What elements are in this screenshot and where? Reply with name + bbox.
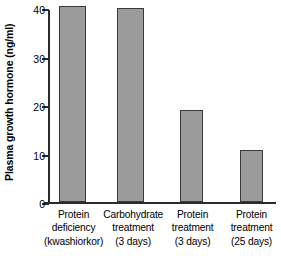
x-axis-label-0-line-2: (kwashiorkor) — [44, 235, 103, 248]
x-axis-label-2-line-1: treatment — [163, 221, 222, 234]
y-axis-title: Plasma growth hormone (ng/ml) — [0, 0, 18, 205]
x-axis-label-1-line-1: treatment — [103, 221, 163, 234]
x-axis-line — [44, 202, 276, 204]
y-tick-label-20: 20 — [33, 102, 45, 113]
bar-chart: Plasma growth hormone (ng/ml) 0 10 20 30… — [0, 0, 281, 259]
x-axis-label-2-line-2: (3 days) — [163, 235, 222, 248]
plot-area: 0 10 20 30 40 — [48, 8, 276, 204]
x-axis-label-0: Protein deficiency (kwashiorkor) — [44, 208, 103, 259]
y-axis-title-label: Plasma growth hormone (ng/ml) — [4, 24, 15, 182]
x-axis-label-0-line-0: Protein — [44, 208, 103, 221]
x-axis-label-1: Carbohydrate treatment (3 days) — [103, 208, 163, 259]
x-axis-label-3: Protein treatment (25 days) — [222, 208, 281, 259]
x-axis-label-0-line-1: deficiency — [44, 221, 103, 234]
x-axis-label-2: Protein treatment (3 days) — [163, 208, 222, 259]
x-axis-label-1-line-0: Carbohydrate — [103, 208, 163, 221]
y-tick-label-30: 30 — [33, 53, 45, 64]
bar-1 — [117, 8, 144, 202]
x-axis-labels: Protein deficiency (kwashiorkor) Carbohy… — [44, 208, 281, 259]
y-tick-label-10: 10 — [33, 150, 45, 161]
x-axis-label-3-line-2: (25 days) — [222, 235, 281, 248]
bar-3 — [240, 150, 263, 202]
x-axis-label-1-line-2: (3 days) — [103, 235, 163, 248]
x-axis-label-2-line-0: Protein — [163, 208, 222, 221]
bar-2 — [180, 110, 203, 202]
x-axis-label-3-line-0: Protein — [222, 208, 281, 221]
y-tick-label-40: 40 — [33, 5, 45, 16]
bar-0 — [59, 6, 86, 202]
x-axis-label-3-line-1: treatment — [222, 221, 281, 234]
